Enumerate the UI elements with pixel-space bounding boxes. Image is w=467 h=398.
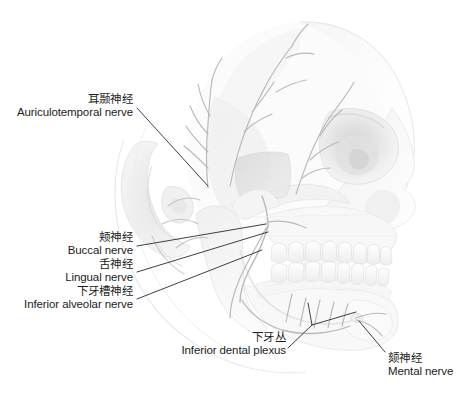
label-buccal-en: Buccal nerve (68, 244, 133, 257)
label-inferior-dental-plexus-zh: 下牙丛 (181, 331, 286, 344)
label-lingual-en: Lingual nerve (65, 271, 133, 284)
label-mental: 颏神经 Mental nerve (388, 352, 453, 378)
label-auriculotemporal-en: Auriculotemporal nerve (17, 106, 133, 119)
label-inferior-dental-plexus: 下牙丛 Inferior dental plexus (181, 331, 286, 357)
label-auriculotemporal-zh: 耳颞神经 (17, 93, 133, 106)
label-mental-zh: 颏神经 (388, 352, 453, 365)
label-inferior-dental-plexus-en: Inferior dental plexus (181, 344, 286, 357)
label-auriculotemporal: 耳颞神经 Auriculotemporal nerve (17, 93, 133, 119)
label-mental-en: Mental nerve (388, 365, 453, 378)
label-inferior-alveolar-zh: 下牙槽神经 (24, 285, 133, 298)
figure-canvas: 耳颞神经 Auriculotemporal nerve 颊神经 Buccal n… (0, 0, 467, 398)
label-buccal: 颊神经 Buccal nerve (68, 231, 133, 257)
label-inferior-alveolar-en: Inferior alveolar nerve (24, 298, 133, 311)
label-lingual: 舌神经 Lingual nerve (65, 258, 133, 284)
label-inferior-alveolar: 下牙槽神经 Inferior alveolar nerve (24, 285, 133, 311)
skull-body (115, 22, 415, 373)
label-lingual-zh: 舌神经 (65, 258, 133, 271)
label-buccal-zh: 颊神经 (68, 231, 133, 244)
